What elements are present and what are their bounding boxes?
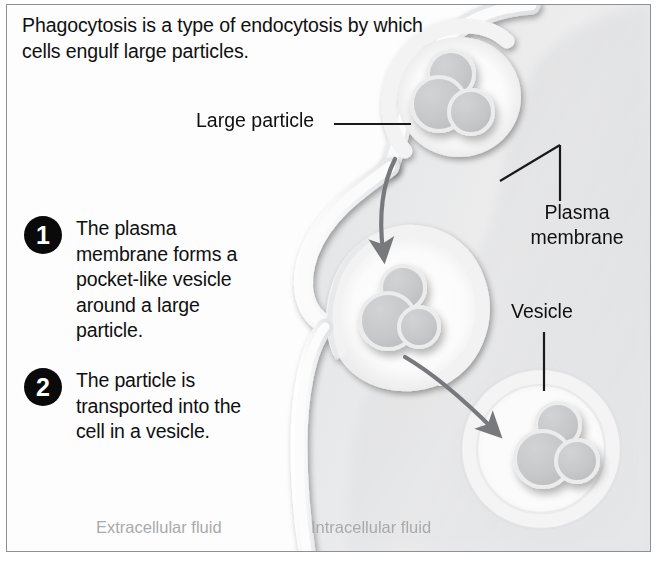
label-plasma-membrane-line1: Plasma (507, 200, 647, 225)
phagocytosis-figure: Phagocytosis is a type of endocytosis by… (0, 0, 660, 561)
step-2-badge: 2 (24, 368, 62, 406)
step-2: 2 The particle is transported into the c… (24, 368, 248, 445)
label-intracellular-fluid: Intracellular fluid (311, 518, 431, 537)
step-1: 1 The plasma membrane forms a pocket-lik… (24, 216, 248, 344)
step-1-text: The plasma membrane forms a pocket-like … (76, 216, 248, 344)
step-1-badge: 1 (24, 216, 62, 254)
label-plasma-membrane: Plasma membrane (507, 200, 647, 250)
label-plasma-membrane-line2: membrane (507, 225, 647, 250)
label-large-particle: Large particle (196, 108, 314, 133)
label-extracellular-fluid: Extracellular fluid (96, 518, 222, 537)
figure-title: Phagocytosis is a type of endocytosis by… (22, 12, 452, 64)
label-vesicle: Vesicle (511, 299, 573, 324)
step-2-text: The particle is transported into the cel… (76, 368, 248, 445)
